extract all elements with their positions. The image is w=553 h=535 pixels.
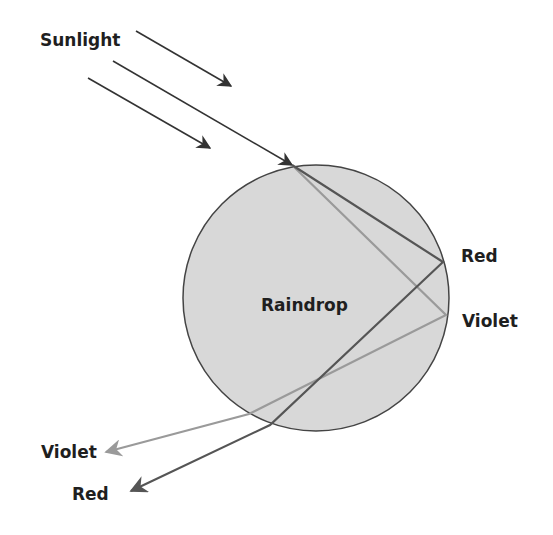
- sunlight-rays: [88, 31, 292, 165]
- violet-exit-label: Violet: [41, 442, 97, 462]
- sun-ray-arrow-2: [113, 61, 292, 165]
- sun-ray-arrow-1: [136, 31, 231, 86]
- rainbow-raindrop-diagram: Sunlight Raindrop Red Violet Violet Red: [0, 0, 553, 535]
- red-reflection-label: Red: [461, 246, 498, 266]
- sunlight-label: Sunlight: [40, 30, 121, 50]
- violet-reflection-label: Violet: [462, 311, 518, 331]
- red-exit-label: Red: [72, 484, 109, 504]
- sun-ray-arrow-3: [88, 78, 210, 148]
- raindrop-label: Raindrop: [261, 295, 348, 315]
